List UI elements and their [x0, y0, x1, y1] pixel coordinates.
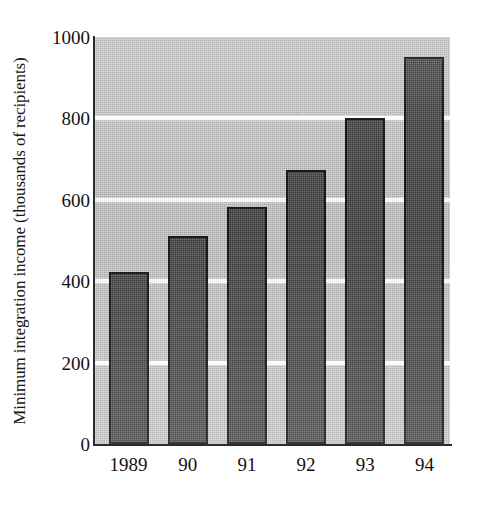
- bar-halftone-texture: [170, 238, 206, 442]
- bar-halftone-texture: [229, 209, 265, 442]
- x-tick-label: 91: [217, 455, 276, 474]
- y-tick-label: 800: [36, 109, 90, 128]
- x-tick-label: 94: [395, 455, 454, 474]
- plot-area: [95, 37, 450, 444]
- y-tick-label: 0: [36, 435, 90, 454]
- y-axis-title: Minimum integration income (thousands of…: [10, 57, 30, 424]
- bar-chart-figure: Minimum integration income (thousands of…: [0, 0, 478, 507]
- x-axis-tick-labels: 19899091929394: [95, 455, 450, 489]
- y-tick-label: 400: [36, 272, 90, 291]
- x-tick-label: 92: [277, 455, 336, 474]
- y-tick-label: 1000: [36, 28, 90, 47]
- y-tick-label: 200: [36, 354, 90, 373]
- y-axis-tick-labels: 02004006008001000: [34, 0, 90, 507]
- x-tick-label: 90: [158, 455, 217, 474]
- gridline: [95, 198, 450, 202]
- bar-halftone-texture: [347, 120, 383, 442]
- bar: [404, 57, 444, 444]
- bar-halftone-texture: [288, 172, 324, 442]
- bar: [227, 207, 267, 444]
- y-axis-title-container: Minimum integration income (thousands of…: [6, 16, 34, 466]
- bar: [345, 118, 385, 444]
- x-tick-label: 93: [336, 455, 395, 474]
- bar-halftone-texture: [406, 59, 442, 442]
- bar-halftone-texture: [111, 274, 147, 442]
- bar: [109, 272, 149, 444]
- bar: [168, 236, 208, 444]
- gridline: [95, 116, 450, 120]
- y-tick-label: 600: [36, 191, 90, 210]
- bar: [286, 170, 326, 444]
- x-axis-line: [93, 444, 452, 446]
- x-tick-label: 1989: [99, 455, 158, 474]
